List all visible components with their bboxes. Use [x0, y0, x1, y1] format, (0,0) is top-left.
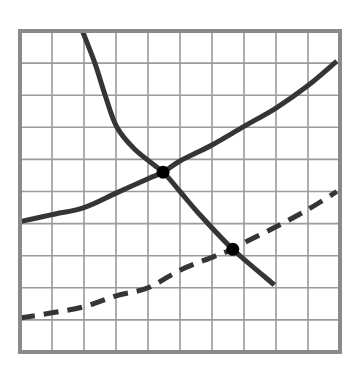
chart [0, 0, 357, 373]
intersection-2-dot [226, 243, 239, 256]
curves [20, 31, 337, 318]
intersection-1-dot [157, 166, 170, 179]
upper-supply-curve [20, 61, 337, 222]
demand-curve [82, 31, 274, 285]
